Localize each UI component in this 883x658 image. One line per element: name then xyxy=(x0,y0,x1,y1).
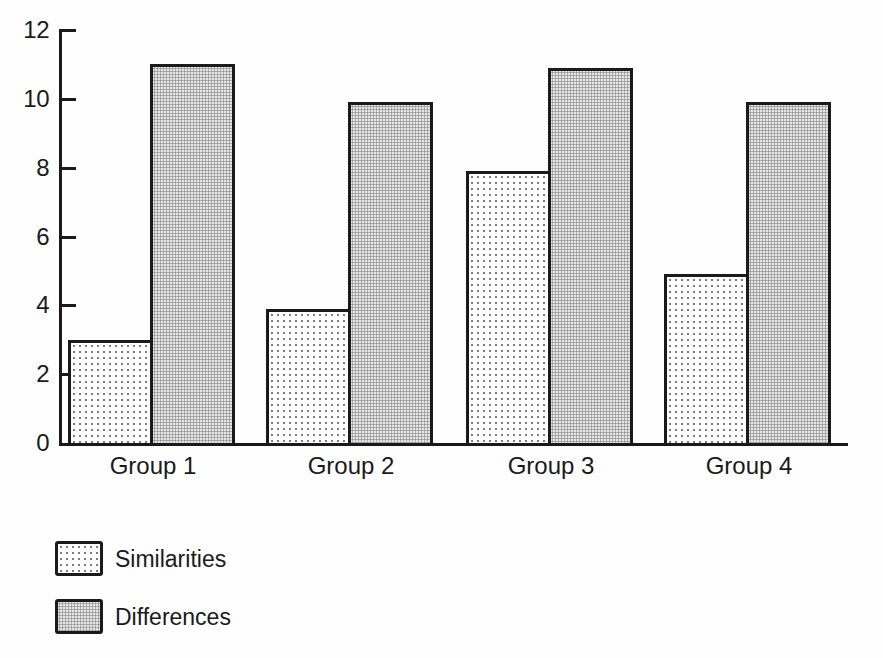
y-tick-6 xyxy=(59,236,76,239)
y-tick-label-2: 2 xyxy=(0,360,49,388)
y-tick-label-10: 10 xyxy=(0,85,49,113)
bar-group-4-differences xyxy=(746,102,831,443)
bar-group-2-similarities xyxy=(266,309,351,443)
y-tick-8 xyxy=(59,167,76,170)
bar-group-4-similarities xyxy=(664,274,749,443)
bar-group-1-similarities xyxy=(68,340,153,443)
x-axis-line xyxy=(59,443,848,446)
y-tick-label-12: 12 xyxy=(0,16,49,44)
legend-swatch-differences xyxy=(55,599,103,634)
scanned-bar-chart-figure: 024681012Group 1Group 2Group 3Group 4 Si… xyxy=(0,0,883,658)
y-tick-label-6: 6 xyxy=(0,223,49,251)
x-label-group-1: Group 1 xyxy=(68,452,238,480)
x-label-group-3: Group 3 xyxy=(466,452,636,480)
y-tick-label-8: 8 xyxy=(0,154,49,182)
x-label-group-4: Group 4 xyxy=(664,452,834,480)
bar-group-3-differences xyxy=(548,68,633,443)
legend-label-similarities: Similarities xyxy=(115,545,226,573)
plot-area: 024681012Group 1Group 2Group 3Group 4 xyxy=(0,0,883,500)
y-tick-10 xyxy=(59,98,76,101)
y-tick-label-4: 4 xyxy=(0,291,49,319)
y-tick-4 xyxy=(59,304,76,307)
legend: SimilaritiesDifferences xyxy=(0,500,883,658)
y-tick-label-0: 0 xyxy=(0,429,49,457)
legend-label-differences: Differences xyxy=(115,603,231,631)
x-label-group-2: Group 2 xyxy=(266,452,436,480)
bar-group-2-differences xyxy=(348,102,433,443)
bar-group-1-differences xyxy=(150,64,235,443)
bar-group-3-similarities xyxy=(466,171,551,443)
y-tick-12 xyxy=(59,29,76,32)
legend-swatch-similarities xyxy=(55,541,103,576)
